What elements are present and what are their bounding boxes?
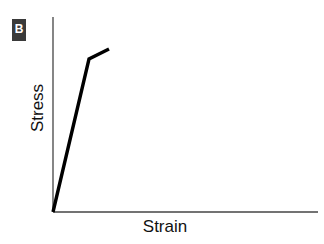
stress-strain-curve (53, 49, 109, 212)
y-axis-label: Stress (28, 84, 48, 132)
x-axis-label: Strain (143, 217, 187, 237)
stress-strain-chart (0, 0, 324, 244)
